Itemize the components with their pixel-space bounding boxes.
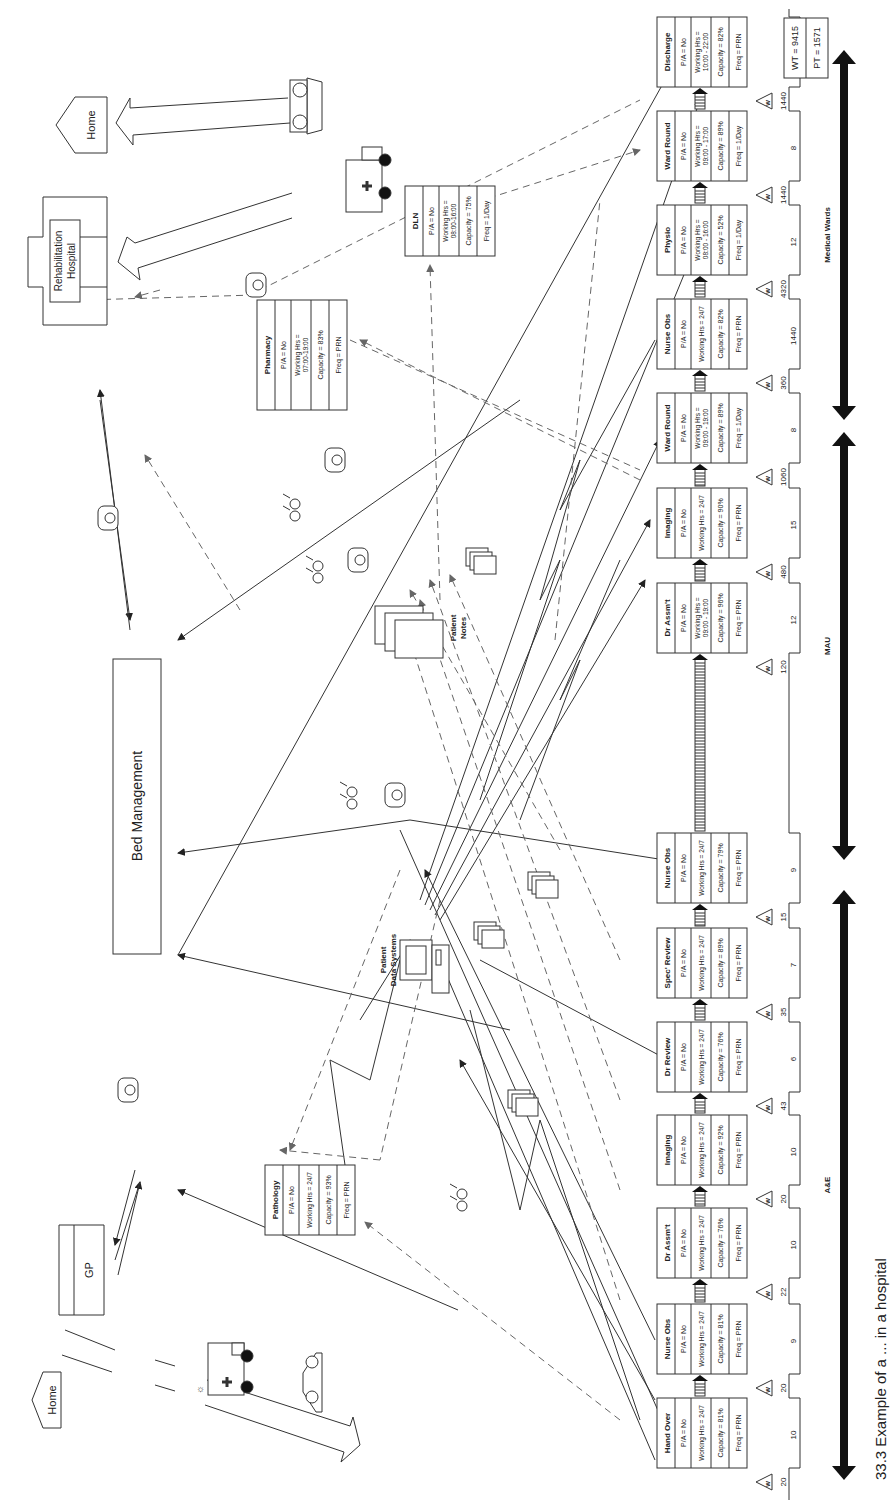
process-title: Pathology — [271, 1180, 280, 1219]
svg-text:Hospital: Hospital — [66, 243, 77, 279]
rehabilitation-hospital: Rehabilitation Hospital — [28, 197, 107, 325]
inventory-wait-icon: W — [756, 1380, 772, 1396]
process-working-hours-range: 09:00 - 17:00 — [702, 126, 709, 165]
process-pa: P/A = No — [680, 604, 687, 632]
process-capacity: Capacity = 52% — [717, 215, 725, 264]
process-working-hours: Working Hrs = 24/7 — [698, 306, 706, 362]
process-pa: P/A = No — [680, 1325, 687, 1353]
process-working-hours: Working Hrs = 24/7 — [698, 1405, 706, 1461]
process-pa: P/A = No — [288, 1186, 295, 1214]
gp: GP — [59, 1225, 104, 1315]
flow-arrow-to-home — [116, 98, 290, 145]
process-pa: P/A = No — [428, 207, 435, 235]
inventory-wait-icon: W — [756, 1474, 772, 1490]
process-time-value: 8 — [789, 145, 798, 150]
process-capacity: Capacity = 83% — [317, 330, 325, 379]
inventory-wait-icon: W — [756, 1284, 772, 1300]
process-title: Nurse Obs — [663, 1318, 672, 1359]
process-capacity: Capacity = 82% — [717, 27, 725, 76]
support-process-dln: DLNP/A = NoWorking Hrs =08:00-16:00Capac… — [405, 186, 495, 256]
process-capacity: Capacity = 89% — [717, 121, 725, 170]
process-title: Discharge — [663, 32, 672, 71]
section-label: MAU — [823, 637, 832, 655]
section-arrow-a-e: A&E — [823, 890, 856, 1480]
process-box-2: Nurse ObsP/A = NoWorking Hrs = 24/7Capac… — [657, 1304, 747, 1374]
process-frequency: Freq = PRN — [735, 944, 743, 981]
process-working-hours: Working Hrs = — [694, 597, 702, 638]
ambulance-icon-bottom: ☼ — [196, 1343, 253, 1395]
svg-text:Notes: Notes — [459, 616, 468, 639]
process-frequency: Freq = PRN — [735, 1320, 743, 1357]
process-working-hours: Working Hrs = — [694, 125, 702, 166]
process-working-hours: Working Hrs = 24/7 — [698, 495, 706, 551]
process-time-value: 15 — [789, 520, 798, 529]
process-title: Dr Assm't — [663, 599, 672, 637]
wait-icon-label: W — [765, 1387, 771, 1393]
process-time-value: 10 — [789, 1147, 798, 1156]
push-arrow-icon — [692, 276, 708, 297]
push-arrow-icon — [692, 904, 708, 926]
process-capacity: Capacity = 96% — [717, 593, 725, 642]
process-box-4: ImagingP/A = NoWorking Hrs = 24/7Capacit… — [657, 1115, 747, 1185]
process-working-hours: Working Hrs = — [694, 219, 702, 260]
wait-time-value: 20 — [779, 1477, 788, 1486]
home-bottom: Home — [32, 1372, 61, 1428]
wait-icon-label: W — [765, 1481, 771, 1487]
process-time-value: 6 — [789, 1056, 798, 1061]
inventory-wait-icon: W — [756, 93, 772, 109]
section-arrows: A&EMAUMedical Wards — [823, 50, 856, 1480]
wait-icon-label: W — [765, 666, 771, 672]
process-time-value: 12 — [789, 237, 798, 246]
process-pa: P/A = No — [680, 132, 687, 160]
process-pa: P/A = No — [680, 414, 687, 442]
process-title: Pharmacy — [263, 335, 272, 374]
process-frequency: Freq = PRN — [343, 1181, 351, 1218]
process-pa: P/A = No — [680, 320, 687, 348]
inventory-wait-icon: W — [756, 564, 772, 580]
push-arrow-icon — [692, 559, 708, 581]
timeline: 1020920102210206437359151212015480810601… — [779, 9, 800, 1500]
support-process-pathology: PathologyP/A = NoWorking Hrs = 24/7Capac… — [265, 1165, 355, 1235]
process-capacity: Capacity = 92% — [717, 1125, 725, 1174]
process-working-hours: Working Hrs = 24/7 — [698, 1311, 706, 1367]
bed-management: Bed Management — [113, 659, 161, 954]
wait-time-value: 1440 — [779, 186, 788, 204]
svg-text:Bed Management: Bed Management — [129, 751, 145, 862]
process-box-3: Dr Assm'tP/A = NoWorking Hrs = 24/7Capac… — [657, 1208, 747, 1278]
wait-time-value: 4320 — [779, 280, 788, 298]
process-capacity: Capacity = 93% — [325, 1175, 333, 1224]
inventory-wait-icon: W — [756, 659, 772, 675]
process-time-value: 12 — [789, 615, 798, 624]
process-time-value: 9 — [789, 867, 798, 872]
inventory-wait-icon: W — [756, 281, 772, 297]
process-frequency: Freq = PRN — [735, 599, 743, 636]
process-working-hours: Working Hrs = — [694, 407, 702, 448]
process-capacity: Capacity = 75% — [465, 196, 473, 245]
svg-text:Patient: Patient — [449, 614, 458, 641]
figure-caption: 33.3 Example of a ... in a hospital — [872, 1258, 889, 1480]
process-pa: P/A = No — [680, 1136, 687, 1164]
process-frequency: Freq = 1/Day — [735, 125, 743, 166]
wait-time-value: 35 — [779, 1007, 788, 1016]
process-time-value: 7 — [789, 962, 798, 967]
value-stream-map: Home Rehabilitation Hospital Bed Managem… — [0, 0, 893, 1502]
push-arrow-icon — [692, 1279, 708, 1302]
process-pa: P/A = No — [680, 949, 687, 977]
support-processes: PharmacyP/A = NoWorking Hrs =07:00-19:00… — [257, 186, 495, 1235]
process-working-hours: Working Hrs = — [442, 200, 450, 241]
wait-icon-label: W — [765, 571, 771, 577]
wait-time-value: 15 — [779, 912, 788, 921]
process-frequency: Freq = 1/Day — [483, 200, 491, 241]
process-box-1: Hand OverP/A = NoWorking Hrs = 24/7Capac… — [657, 1398, 747, 1468]
process-capacity: Capacity = 79% — [717, 843, 725, 892]
car-icon-top — [290, 78, 322, 134]
wait-time-value: 1440 — [779, 92, 788, 110]
process-title: Imaging — [663, 1135, 672, 1166]
process-time-total: PT = 1571 — [812, 27, 822, 69]
process-frequency: Freq = 1/Day — [735, 219, 743, 260]
process-pa: P/A = No — [280, 341, 287, 369]
home-top: Home — [56, 97, 107, 153]
svg-text:☼: ☼ — [196, 1383, 205, 1394]
process-box-9: ImagingP/A = NoWorking Hrs = 24/7Capacit… — [657, 488, 747, 558]
svg-text:Home: Home — [46, 1385, 58, 1414]
